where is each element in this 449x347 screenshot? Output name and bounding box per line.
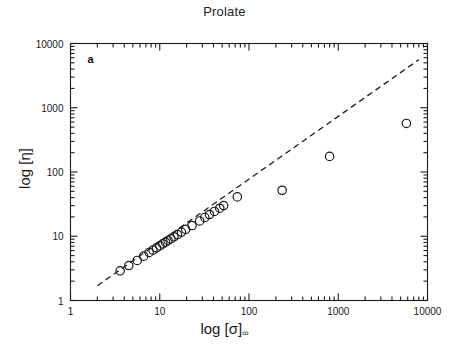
- x-tick-label: 1: [68, 306, 74, 317]
- plot-frame: [71, 44, 428, 301]
- y-tick-label: 10: [52, 231, 64, 242]
- y-tick-label: 100: [47, 167, 64, 178]
- x-tick-label: 10: [154, 306, 166, 317]
- data-point-marker: [125, 261, 133, 269]
- data-point-marker: [188, 221, 196, 229]
- x-tick-label: 100: [241, 306, 258, 317]
- y-tick-label: 1000: [41, 103, 64, 114]
- panel-label: a: [88, 53, 95, 65]
- x-axis-title: log [σ]∞: [0, 320, 449, 338]
- x-axis-title-subscript: ∞: [242, 328, 248, 338]
- data-point-marker: [325, 152, 333, 160]
- data-point-marker: [402, 119, 410, 127]
- x-tick-label: 1000: [327, 306, 350, 317]
- y-axis-title: log [η]: [16, 109, 33, 229]
- data-point-marker: [233, 193, 241, 201]
- data-point-marker: [219, 201, 227, 209]
- plot-area: 110100100010000110100100010000a: [0, 0, 449, 347]
- y-tick-label: 1: [58, 296, 64, 307]
- data-point-marker: [116, 267, 124, 275]
- chart-figure: Prolate 110100100010000110100100010000a …: [0, 0, 449, 347]
- y-axis-title-text: log [η]: [16, 148, 33, 189]
- y-tick-label: 10000: [36, 39, 64, 50]
- data-point-marker: [278, 186, 286, 194]
- x-tick-label: 10000: [414, 306, 442, 317]
- x-axis-title-text: log [σ]: [200, 320, 242, 337]
